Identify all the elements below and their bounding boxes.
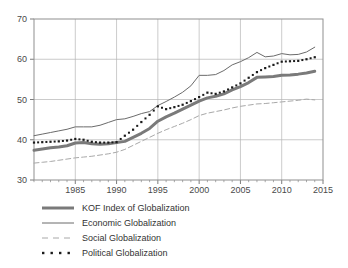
data-point-marker xyxy=(198,96,200,98)
chart-legend: KOF Index of GlobalizationEconomic Globa… xyxy=(42,203,190,258)
data-point-marker xyxy=(111,141,113,143)
legend-label: Political Globalization xyxy=(82,248,168,258)
data-point-marker xyxy=(149,114,151,116)
data-point-marker xyxy=(103,142,105,144)
legend-item: Social Globalization xyxy=(42,233,161,243)
data-point-marker xyxy=(235,84,237,86)
legend-label: Economic Globalization xyxy=(82,218,176,228)
data-point-marker xyxy=(107,141,109,143)
data-point-marker xyxy=(115,141,117,143)
data-point-marker xyxy=(91,141,93,143)
data-point-marker xyxy=(310,57,312,59)
data-point-marker xyxy=(140,121,142,123)
data-point-marker xyxy=(54,141,56,143)
globalization-line-chart: 3040506070 1985199019952000200520102015 … xyxy=(0,0,348,268)
y-tick-label: 60 xyxy=(17,54,27,64)
x-tick-label: 2015 xyxy=(313,185,333,195)
data-point-marker xyxy=(215,93,217,95)
data-point-marker xyxy=(256,71,258,73)
data-point-marker xyxy=(227,88,229,90)
legend-swatch-dotted xyxy=(51,252,53,254)
x-axis-tick-labels: 1985199019952000200520102015 xyxy=(65,185,333,195)
data-point-marker xyxy=(264,67,266,69)
data-point-marker xyxy=(33,141,35,143)
data-point-marker xyxy=(165,108,167,110)
legend-swatch-dotted xyxy=(59,252,61,254)
data-point-marker xyxy=(297,60,299,62)
data-point-marker xyxy=(124,135,126,137)
data-point-marker xyxy=(289,60,291,62)
data-point-marker xyxy=(45,141,47,143)
y-axis-tick-labels: 3040506070 xyxy=(17,14,27,185)
data-point-marker xyxy=(314,56,316,58)
data-point-marker xyxy=(219,92,221,94)
data-point-marker xyxy=(37,141,39,143)
data-point-marker xyxy=(66,139,68,141)
x-tick-label: 1990 xyxy=(107,185,127,195)
data-point-marker xyxy=(301,59,303,61)
legend-item: Economic Globalization xyxy=(42,218,176,228)
data-point-marker xyxy=(41,141,43,143)
data-point-marker xyxy=(260,69,262,71)
x-tick-label: 2000 xyxy=(189,185,209,195)
data-point-marker xyxy=(82,139,84,141)
data-point-marker xyxy=(248,77,250,79)
legend-item: KOF Index of Globalization xyxy=(42,203,190,213)
x-tick-label: 2010 xyxy=(272,185,292,195)
data-point-marker xyxy=(58,140,60,142)
figure: 3040506070 1985199019952000200520102015 … xyxy=(0,0,348,268)
y-tick-label: 30 xyxy=(17,175,27,185)
data-point-marker xyxy=(182,104,184,106)
data-point-marker xyxy=(305,58,307,60)
data-point-marker xyxy=(281,61,283,63)
data-point-marker xyxy=(95,141,97,143)
y-tick-label: 70 xyxy=(17,14,27,24)
data-point-marker xyxy=(223,90,225,92)
data-point-marker xyxy=(173,106,175,108)
data-point-marker xyxy=(202,94,204,96)
data-point-marker xyxy=(87,140,89,142)
legend-swatch-dotted xyxy=(42,252,44,254)
data-point-marker xyxy=(178,105,180,107)
data-point-marker xyxy=(136,125,138,127)
x-tick-label: 2005 xyxy=(230,185,250,195)
data-point-marker xyxy=(99,141,101,143)
data-point-marker xyxy=(161,107,163,109)
data-point-marker xyxy=(231,86,233,88)
legend-item: Political Globalization xyxy=(42,248,168,258)
data-point-marker xyxy=(252,74,254,76)
data-point-marker xyxy=(78,138,80,140)
data-point-marker xyxy=(285,60,287,62)
legend-label: Social Globalization xyxy=(82,233,161,243)
data-point-marker xyxy=(190,100,192,102)
data-point-marker xyxy=(211,92,213,94)
y-tick-label: 50 xyxy=(17,95,27,105)
data-point-marker xyxy=(128,132,130,134)
data-point-marker xyxy=(49,141,51,143)
legend-swatch-dotted xyxy=(68,252,70,254)
data-point-marker xyxy=(153,110,155,112)
data-point-marker xyxy=(239,82,241,84)
data-point-marker xyxy=(120,138,122,140)
data-point-marker xyxy=(272,64,274,66)
legend-label: KOF Index of Globalization xyxy=(82,203,190,213)
x-tick-label: 1995 xyxy=(148,185,168,195)
data-point-marker xyxy=(194,98,196,100)
data-point-marker xyxy=(186,102,188,104)
data-point-marker xyxy=(293,60,295,62)
data-point-marker xyxy=(277,62,279,64)
data-point-marker xyxy=(62,140,64,142)
data-point-marker xyxy=(268,65,270,67)
y-tick-label: 40 xyxy=(17,135,27,145)
data-point-marker xyxy=(169,107,171,109)
data-point-marker xyxy=(206,92,208,94)
data-point-marker xyxy=(144,117,146,119)
data-point-marker xyxy=(74,138,76,140)
x-tick-label: 1985 xyxy=(65,185,85,195)
data-point-marker xyxy=(157,105,159,107)
data-point-marker xyxy=(70,139,72,141)
data-point-marker xyxy=(132,129,134,131)
data-point-marker xyxy=(244,80,246,82)
